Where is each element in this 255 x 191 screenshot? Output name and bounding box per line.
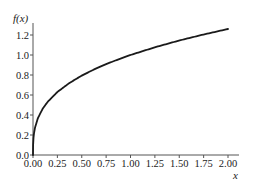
series-line-f-of-x <box>33 29 228 155</box>
line-chart: 0.00.20.40.60.81.01.2 f(x) 0.000.250.500… <box>0 0 255 191</box>
y-tick-label: 1.2 <box>16 30 29 41</box>
x-tick-label: 1.75 <box>194 158 212 169</box>
x-tick-label: 1.50 <box>170 158 188 169</box>
x-tick-label: 2.00 <box>219 158 237 169</box>
y-tick-label: 1.0 <box>16 50 29 61</box>
x-axis: 0.000.250.500.751.001.251.501.752.00 x <box>24 155 239 181</box>
x-tick-label: 1.25 <box>146 158 164 169</box>
y-ticks: 0.00.20.40.60.81.01.2 <box>16 30 33 161</box>
y-tick-label: 0.2 <box>16 130 29 141</box>
x-tick-label: 0.00 <box>24 158 42 169</box>
y-tick-label: 0.6 <box>16 90 29 101</box>
x-ticks: 0.000.250.500.751.001.251.501.752.00 <box>24 155 237 169</box>
x-tick-label: 0.75 <box>97 158 115 169</box>
y-tick-label: 0.4 <box>16 110 30 121</box>
y-tick-label: 0.8 <box>16 70 29 81</box>
x-tick-label: 0.25 <box>48 158 66 169</box>
x-axis-label: x <box>232 169 238 181</box>
x-tick-label: 0.50 <box>73 158 91 169</box>
y-axis-label: f(x) <box>13 12 29 25</box>
x-tick-label: 1.00 <box>121 158 139 169</box>
y-axis: 0.00.20.40.60.81.01.2 f(x) <box>13 12 33 161</box>
